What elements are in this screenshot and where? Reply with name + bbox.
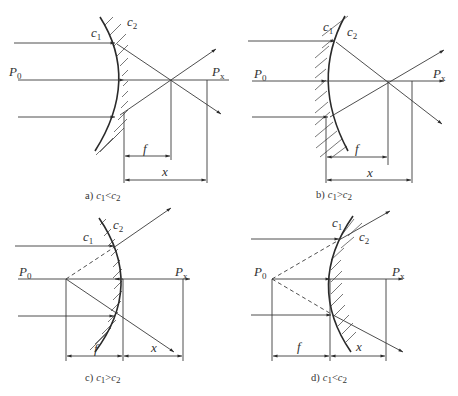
panel-b: c1 c2 P0 Px f x b)c1>c2 [248,16,446,202]
caption-b: b)c1>c2 [316,189,352,202]
label-c2: c2 [113,217,123,234]
panel-a: c1 c2 P0 Px f x a)c1<c2 [8,14,229,203]
mirror-surface [328,16,348,151]
label-x: x [150,340,157,355]
label-px: Px [174,264,188,281]
caption-a: a)c1<c2 [85,190,120,203]
label-c1: c1 [83,229,93,246]
label-x: x [366,165,373,180]
label-p0: P0 [18,264,32,281]
diagram-canvas: c1 c2 P0 Px f x a)c1<c2 [0,0,458,396]
label-p0: P0 [253,66,267,83]
label-f: f [355,141,361,156]
label-f: f [297,339,303,354]
label-c2: c2 [127,14,137,31]
label-p0: P0 [253,264,267,281]
label-f: f [143,141,149,156]
label-c1: c1 [91,25,101,42]
label-c2: c2 [347,24,357,41]
label-c2: c2 [359,229,369,246]
label-p0: P0 [8,64,22,81]
label-x: x [161,164,168,179]
panel-c: c1 c2 P0 Px f x c)c1>c2 [15,208,190,385]
label-c1: c1 [332,215,342,232]
label-px: Px [391,264,405,281]
label-f: f [94,341,100,356]
hatch-region [90,219,122,350]
label-x: x [355,339,362,354]
mirror-surface [95,218,121,352]
hatch-region [315,16,348,158]
panel-d: c1 c2 P0 Px f x d)c1<c2 [251,211,405,385]
caption-d: d)c1<c2 [311,372,347,385]
label-px: Px [211,64,225,81]
label-px: Px [432,66,446,83]
label-c1: c1 [323,19,333,36]
caption-c: c)c1>c2 [85,372,120,385]
